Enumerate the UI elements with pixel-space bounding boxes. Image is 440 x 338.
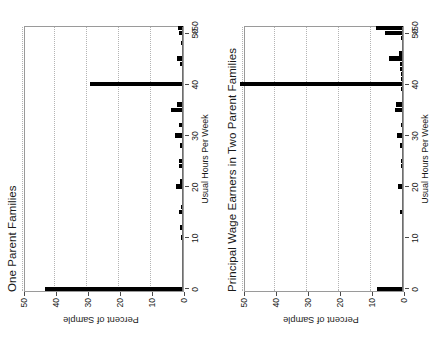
category-axis-tick-label: 40 — [410, 80, 420, 89]
gridline — [118, 27, 119, 291]
gridline — [338, 27, 339, 291]
chart-panel-principal-wage-earners: Principal Wage Earners in Two Parent Fam… — [220, 0, 440, 338]
value-axis-tick — [24, 292, 25, 296]
value-axis-tick-label: 0 — [399, 298, 409, 303]
category-axis-tick-label: 0 — [410, 287, 420, 292]
gridline — [306, 27, 307, 291]
value-axis-tick-label: 50 — [19, 298, 29, 307]
bar — [90, 82, 183, 86]
plot-area-0 — [24, 26, 184, 292]
category-axis-tick-label: 20 — [410, 182, 420, 191]
category-axis-tick-label: 30 — [410, 131, 420, 140]
value-axis-tick-label: 10 — [367, 298, 377, 307]
category-axis-overflow-label: >50 — [410, 21, 420, 35]
value-axis-tick — [372, 292, 373, 296]
plot-inner-1 — [245, 27, 403, 291]
value-axis-title-1: Percent of Sample — [241, 315, 401, 325]
gridline — [150, 27, 151, 291]
category-axis-title-1: Usual Hours Per Week — [420, 26, 430, 292]
gridline — [274, 27, 275, 291]
category-axis-tick — [405, 135, 409, 136]
category-axis-tick — [405, 288, 409, 289]
plot-area-1 — [244, 26, 404, 292]
gridline — [86, 27, 87, 291]
value-axis-tick — [152, 292, 153, 296]
category-axis-tick-label: 10 — [190, 234, 200, 243]
chart-title-1: Principal Wage Earners in Two Parent Fam… — [226, 12, 238, 292]
value-axis-tick-label: 0 — [179, 298, 189, 303]
value-axis-tick-label: 20 — [335, 298, 345, 307]
category-axis-tick — [405, 84, 409, 85]
value-axis-tick-label: 30 — [83, 298, 93, 307]
category-axis-title-0: Usual Hours Per Week — [200, 26, 210, 292]
value-axis-tick — [308, 292, 309, 296]
bar — [385, 31, 403, 35]
gridline — [242, 27, 243, 291]
category-axis-tick — [405, 186, 409, 187]
category-axis-tick — [185, 186, 189, 187]
value-axis-tick-label: 40 — [51, 298, 61, 307]
category-axis-tick — [405, 33, 409, 34]
value-axis-title-0: Percent of Sample — [21, 315, 181, 325]
bar — [377, 287, 403, 291]
chart-panel-one-parent-families: One Parent Families Percent of Sample 01… — [0, 0, 220, 338]
bar — [389, 56, 403, 60]
category-axis-tick-label: 10 — [410, 234, 420, 243]
figure-page: One Parent Families Percent of Sample 01… — [0, 0, 440, 338]
value-axis-tick-label: 20 — [115, 298, 125, 307]
value-axis-tick — [184, 292, 185, 296]
value-axis-tick — [340, 292, 341, 296]
category-axis-tick — [185, 84, 189, 85]
bar — [240, 82, 403, 86]
category-axis-overflow-label: >50 — [190, 21, 200, 35]
category-axis-tick — [185, 135, 189, 136]
value-axis-baseline-0 — [182, 27, 183, 291]
category-axis-tick-label: 20 — [190, 182, 200, 191]
gridline — [54, 27, 55, 291]
gridline — [370, 27, 371, 291]
value-axis-tick — [404, 292, 405, 296]
category-axis-tick-label: 40 — [190, 80, 200, 89]
value-axis-tick-label: 50 — [239, 298, 249, 307]
chart-title-0: One Parent Families — [6, 12, 18, 292]
chart-0: One Parent Families Percent of Sample 01… — [0, 0, 220, 338]
value-axis-tick — [56, 292, 57, 296]
bar — [45, 287, 183, 291]
category-axis-tick-label: 30 — [190, 131, 200, 140]
category-axis-tick — [185, 33, 189, 34]
value-axis-tick — [244, 292, 245, 296]
value-axis-tick-label: 10 — [147, 298, 157, 307]
category-axis-tick — [185, 237, 189, 238]
value-axis-1: Percent of Sample 01020304050 — [244, 292, 404, 338]
chart-1: Principal Wage Earners in Two Parent Fam… — [220, 0, 440, 338]
category-axis-tick-label: 0 — [190, 287, 200, 292]
value-axis-tick-label: 40 — [271, 298, 281, 307]
bar — [376, 26, 403, 30]
value-axis-0: Percent of Sample 01020304050 — [24, 292, 184, 338]
category-axis-tick — [405, 237, 409, 238]
plot-inner-0 — [25, 27, 183, 291]
value-axis-tick-label: 30 — [303, 298, 313, 307]
value-axis-baseline-1 — [402, 27, 403, 291]
value-axis-tick — [120, 292, 121, 296]
value-axis-tick — [88, 292, 89, 296]
category-axis-tick — [185, 288, 189, 289]
gridline — [22, 27, 23, 291]
value-axis-tick — [276, 292, 277, 296]
